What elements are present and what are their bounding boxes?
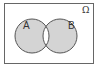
set-b-label: B bbox=[68, 20, 75, 31]
venn-diagram: A B Ω bbox=[0, 0, 98, 71]
universe-label: Ω bbox=[82, 5, 89, 15]
set-a-label: A bbox=[23, 20, 30, 31]
